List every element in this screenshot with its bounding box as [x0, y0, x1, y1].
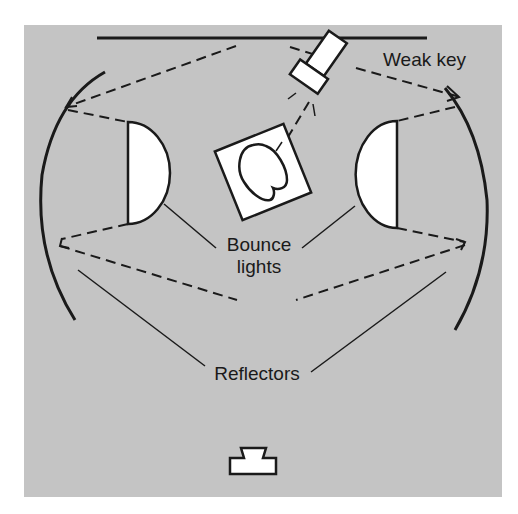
bounce-lights-label-line2: lights — [237, 256, 281, 277]
weak-key-label: Weak key — [383, 49, 467, 70]
lighting-diagram: Weak key Bounce lights Reflectors — [0, 0, 518, 514]
reflectors-label: Reflectors — [214, 363, 300, 384]
bounce-lights-label-line1: Bounce — [227, 234, 291, 255]
